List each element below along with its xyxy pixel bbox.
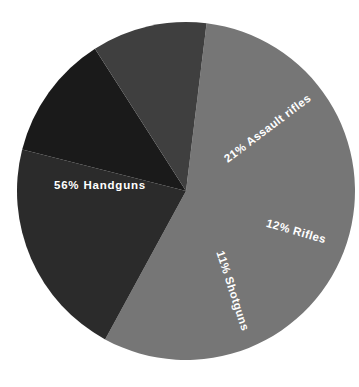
pie-label-handguns: 56% Handguns [54, 179, 146, 191]
pie-chart-container: 56% Handguns21% Assault rifles12% Rifles… [0, 0, 359, 387]
pie-chart-svg: 56% Handguns21% Assault rifles12% Rifles… [0, 0, 359, 387]
